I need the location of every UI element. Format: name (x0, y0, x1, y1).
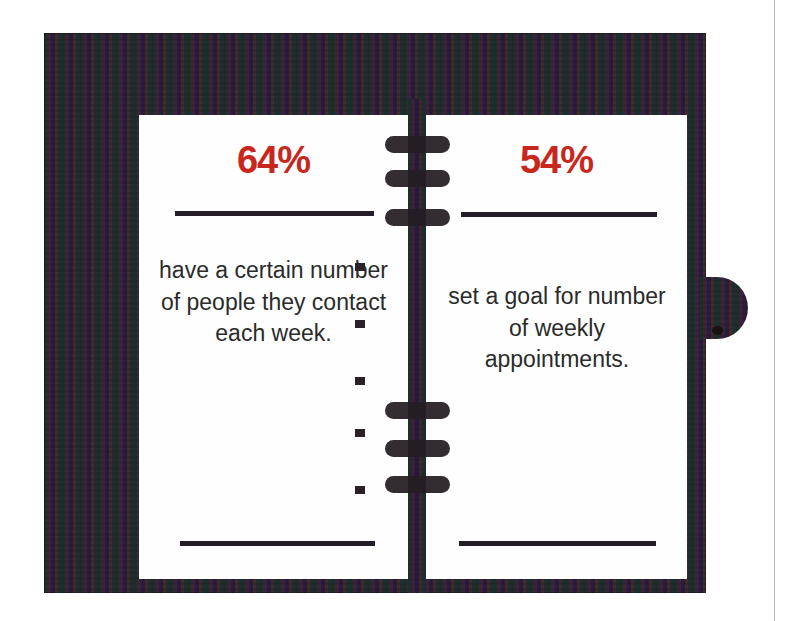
left-stat-block: 64% (139, 141, 408, 179)
spiral-ring-icon (385, 170, 450, 187)
bullet-square-icon (355, 263, 365, 271)
planner-binder: 64% 54% have a certain number of people … (44, 33, 706, 593)
spiral-ring-icon (385, 136, 450, 153)
right-stat-block: 54% (426, 141, 687, 179)
infographic-canvas: 64% 54% have a certain number of people … (0, 0, 798, 621)
right-page-bottom-rule (459, 541, 656, 546)
bullet-square-icon (355, 429, 365, 437)
spiral-ring-icon (385, 440, 450, 457)
left-percent-value: 64% (139, 141, 408, 179)
right-percent-value: 54% (426, 141, 687, 179)
scan-margin-rule (774, 0, 775, 621)
elastic-closure-tab-icon (700, 277, 748, 339)
spiral-ring-icon (385, 209, 450, 226)
left-page-top-rule (175, 211, 374, 216)
closure-tab-stud-icon (712, 326, 723, 335)
spiral-ring-icon (385, 476, 450, 493)
bullet-square-icon (355, 377, 365, 385)
spiral-ring-icon (385, 402, 450, 419)
right-page-statement: set a goal for number of weekly appointm… (444, 281, 670, 376)
right-page-top-rule (461, 212, 657, 217)
left-page-bottom-rule (180, 541, 375, 546)
bullet-square-icon (355, 486, 365, 494)
bullet-square-icon (355, 320, 365, 328)
